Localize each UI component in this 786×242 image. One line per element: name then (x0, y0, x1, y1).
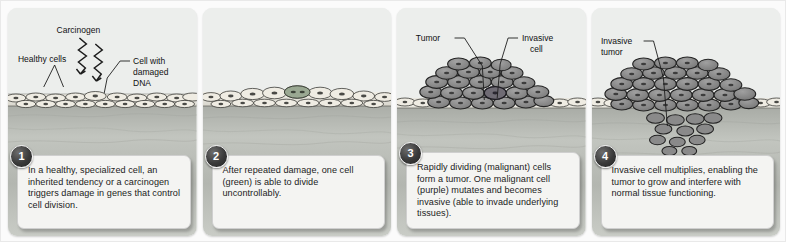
caption-text-2: After repeated damage, one cell (green) … (223, 165, 377, 200)
step-badge-2: 2 (205, 145, 228, 168)
label-carcinogen: Carcinogen (57, 25, 101, 35)
dividing-green-cell (284, 86, 310, 98)
caption-text-4: Invasive cell multiplies, enabling the t… (612, 165, 766, 200)
step-badge-4: 4 (594, 145, 617, 168)
label-invasive-tumor-line1: Invasive (600, 36, 631, 46)
label-invasive-cell-line1: Invasive (522, 33, 553, 43)
cancer-development-figure: Healthy cells Cell with damaged DNA Carc… (0, 0, 786, 242)
label-invasive-cell-line2: cell (530, 44, 543, 54)
caption-box-1: 1 In a healthy, specialized cell, an inh… (17, 155, 191, 229)
panel-stage-1: Healthy cells Cell with damaged DNA Carc… (8, 8, 197, 236)
caption-box-3: 3 Rapidly dividing (malignant) cells for… (406, 152, 580, 229)
panel-stage-3: Tumor Invasive cell 3 Rapidly dividing (… (397, 8, 586, 236)
label-damaged-dna-line3: DNA (133, 78, 151, 88)
caption-text-1: In a healthy, specialized cell, an inher… (28, 165, 182, 211)
panel-stage-2: 2 After repeated damage, one cell (green… (203, 8, 392, 236)
caption-text-3: Rapidly dividing (malignant) cells form … (417, 162, 571, 220)
panel-stage-4: Invasive tumor 4 Invasive cell multiplie… (592, 8, 781, 236)
panel-row: Healthy cells Cell with damaged DNA Carc… (8, 8, 780, 236)
label-tumor: Tumor (416, 33, 440, 43)
label-damaged-dna-line2: damaged (133, 67, 169, 77)
step-badge-3: 3 (399, 142, 422, 165)
label-damaged-dna-line1: Cell with (133, 56, 165, 66)
label-invasive-tumor-line2: tumor (600, 47, 622, 57)
caption-box-2: 2 After repeated damage, one cell (green… (212, 155, 386, 229)
caption-box-4: 4 Invasive cell multiplies, enabling the… (601, 155, 775, 229)
label-healthy-cells: Healthy cells (18, 54, 66, 64)
step-badge-1: 1 (10, 145, 33, 168)
